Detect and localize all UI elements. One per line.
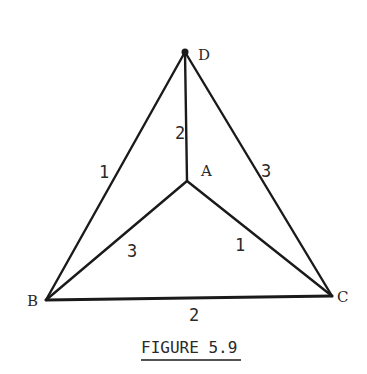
vertex-label-a: A — [200, 162, 212, 180]
edge-a-b — [46, 181, 187, 300]
vertex-d-dot — [182, 49, 189, 56]
edge-weight-d-b: 1 — [99, 162, 109, 182]
vertex-label-b: B — [27, 292, 38, 310]
edge-weight-b-c: 2 — [189, 305, 199, 325]
edge-a-c — [187, 181, 332, 296]
figure-caption: FIGURE 5.9 — [141, 338, 237, 357]
weighted-graph-figure: D A B C 1 2 3 3 1 2 FIGURE 5.9 — [0, 0, 367, 374]
edge-weight-d-c: 3 — [261, 161, 271, 181]
vertex-label-c: C — [337, 288, 348, 306]
edge-b-c — [46, 296, 332, 300]
edge-weight-a-c: 1 — [235, 235, 245, 255]
edge-d-a — [185, 52, 187, 181]
edge-weight-d-a: 2 — [175, 123, 185, 143]
edge-d-b — [46, 52, 185, 300]
vertex-label-d: D — [198, 46, 210, 64]
edge-weight-a-b: 3 — [127, 241, 137, 261]
